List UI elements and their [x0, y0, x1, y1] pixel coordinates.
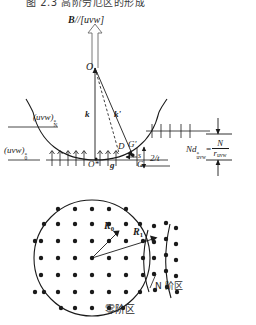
wavevector-k	[93, 68, 98, 159]
radius-r1-arrow	[92, 236, 158, 259]
layer-0-base: (uvw)	[4, 145, 25, 155]
radius-R1-subscript: 1	[140, 231, 143, 238]
zero-order-diffraction-spots	[33, 207, 145, 310]
label-layer-0: (uvw)*0	[4, 146, 25, 155]
beam-direction-indices: //[uvw]	[75, 14, 104, 25]
n-order-zone-text: N 阶区	[155, 281, 183, 291]
label-wavevector-k-prime: k'	[114, 110, 121, 119]
label-layer-N: (uvw)*N	[33, 113, 54, 122]
label-relrod-extent: 2/t	[150, 154, 160, 163]
figure-canvas	[0, 0, 256, 325]
label-radius-R1: R1	[133, 227, 143, 238]
ewald-sphere-branches	[26, 99, 167, 112]
beam-symbol-B: B	[68, 14, 75, 25]
formula-numerator: N	[212, 139, 229, 148]
radius-R1-base: R	[133, 226, 140, 237]
label-point-G: G	[137, 160, 144, 169]
label-zero-order-zone: 零阶区	[105, 305, 135, 315]
formula-lhs-base: Nd	[186, 144, 197, 154]
label-reciprocal-vector-g: g	[110, 161, 115, 170]
label-n-order-zone: N 阶区	[155, 282, 183, 291]
label-point-G-prime: G'	[128, 140, 136, 149]
layer-N-base: (uvw)	[33, 112, 54, 122]
layer-0-subscript: 0	[25, 156, 28, 161]
layer-N-subscript: N	[54, 123, 58, 128]
label-wavevector-k: k	[85, 110, 90, 119]
radius-R0-base: R	[104, 220, 111, 231]
zero-order-relrods	[50, 151, 119, 167]
formula-denominator: ruvw	[212, 148, 229, 159]
formula-fraction: Nruvw	[212, 139, 229, 159]
label-origin-O: O	[86, 62, 93, 72]
label-radius-R0: R0	[104, 221, 114, 232]
label-point-D: D	[118, 142, 125, 151]
label-origin-O-star: O*	[88, 160, 99, 169]
formula-lhs-subscript: uvw	[197, 155, 206, 160]
formula-den-subscript: uvw	[217, 152, 227, 158]
label-layer-spacing-formula: Nd*uvw=Nruvw	[186, 139, 229, 159]
radius-R0-subscript: 0	[111, 225, 114, 232]
beam-direction-label: B//[uvw]	[68, 15, 104, 25]
